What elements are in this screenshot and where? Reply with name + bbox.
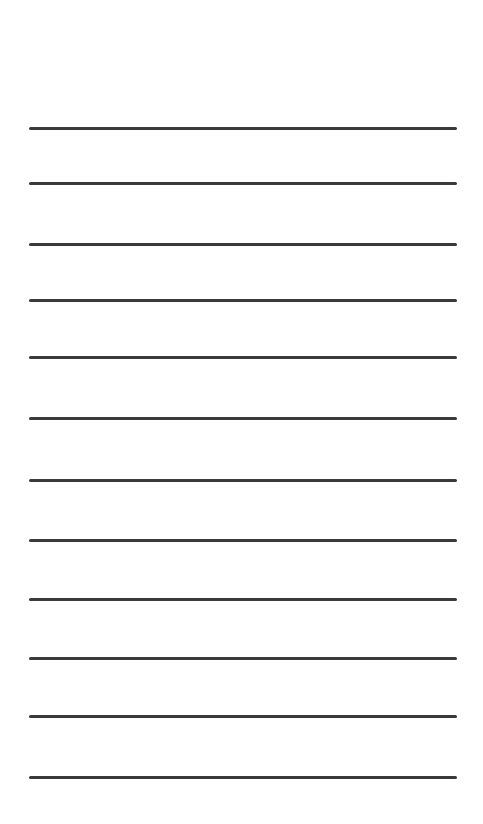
lined-writing-sheet bbox=[0, 0, 483, 824]
writing-line-11 bbox=[29, 715, 457, 718]
writing-line-10 bbox=[29, 657, 457, 660]
writing-line-2 bbox=[29, 182, 457, 185]
writing-line-4 bbox=[29, 299, 457, 302]
writing-line-9 bbox=[29, 598, 457, 601]
writing-line-6 bbox=[29, 417, 457, 420]
writing-line-12 bbox=[29, 776, 457, 779]
writing-line-5 bbox=[29, 356, 457, 359]
writing-line-8 bbox=[29, 539, 457, 542]
writing-line-3 bbox=[29, 243, 457, 246]
writing-line-7 bbox=[29, 479, 457, 482]
writing-line-1 bbox=[29, 127, 457, 130]
